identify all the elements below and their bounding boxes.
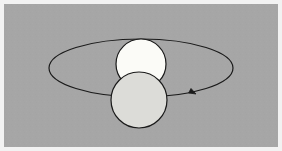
- grey-sphere: [111, 72, 167, 128]
- diagram-canvas: [0, 0, 282, 151]
- orbit-diagram-figure: Orbital motion diagram A white sphere an…: [0, 0, 282, 151]
